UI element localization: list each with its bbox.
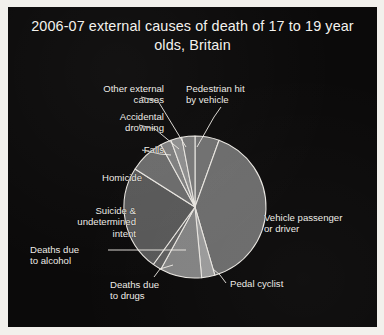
chart-figure: 2006-07 external causes of death of 17 t… [8,7,377,327]
label-deaths-due-to-alcohol: Deaths due to alcohol [30,244,106,267]
label-homicide: Homicide [54,172,142,183]
label-accidental-drowning: Accidental drowning [86,111,164,134]
label-pedestrian-hit-by-vehicle: Pedestrian hit by vehicle [186,83,272,106]
label-falls: Falls [94,144,164,155]
label-pedal-cyclist: Pedal cyclist [230,278,320,289]
chart-title: 2006-07 external causes of death of 17 t… [8,17,377,55]
label-deaths-due-to-drugs: Deaths due to drugs [110,279,186,302]
label-vehicle-passenger-or-driver: Vehicle passenger or driver [264,212,374,235]
label-other-external-causes: Other external causes [86,83,164,106]
label-suicide-undetermined-intent: Suicide & undetermined intent [38,205,136,239]
pie-slices [124,136,266,278]
pie-chart [8,7,377,327]
